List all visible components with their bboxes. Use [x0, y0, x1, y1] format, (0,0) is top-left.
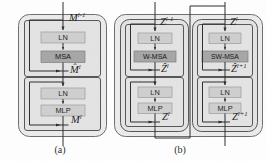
- paper-texture-overlay: [0, 0, 267, 161]
- figure-root: LN MSA LN MLP Ml-1 M̂l: [0, 0, 267, 161]
- diagram-canvas: LN MSA LN MLP Ml-1 M̂l: [0, 0, 267, 161]
